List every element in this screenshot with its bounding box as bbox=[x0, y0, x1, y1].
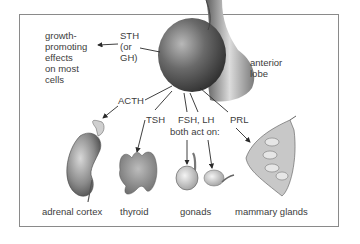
growth-effects-label: growth- promoting effects on most cells bbox=[45, 30, 87, 85]
target-label-thyroid: thyroid bbox=[120, 206, 149, 217]
fsh-lh-label: FSH, LH bbox=[178, 114, 214, 125]
pituitary-gland-icon bbox=[158, 0, 254, 102]
mammary-glands-icon bbox=[246, 116, 296, 196]
adrenal-cortex-icon bbox=[67, 120, 104, 202]
target-label-gonads: gonads bbox=[180, 206, 211, 217]
tsh-label: TSH bbox=[146, 114, 165, 125]
fsh-lh-note: both act on: bbox=[170, 126, 220, 137]
sth-label: STH (or GH) bbox=[120, 30, 139, 63]
gonads-icon bbox=[176, 153, 234, 190]
target-label-mammary-glands: mammary glands bbox=[235, 206, 308, 217]
thyroid-icon bbox=[119, 152, 156, 194]
target-label-adrenal-cortex: adrenal cortex bbox=[42, 206, 102, 217]
prl-label: PRL bbox=[230, 114, 248, 125]
anterior-lobe-label: anterior lobe bbox=[250, 57, 282, 79]
acth-label: ACTH bbox=[118, 95, 144, 106]
